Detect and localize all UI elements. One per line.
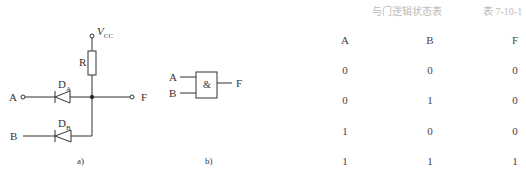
gate-input-a-label: A <box>169 72 177 83</box>
gate-output-f-label: F <box>236 78 242 89</box>
table-cell: 0 <box>427 65 433 76</box>
table-cell: 0 <box>512 95 518 106</box>
table-cell: 1 <box>342 156 348 167</box>
output-f-label: F <box>141 92 147 103</box>
circuit-diagram <box>0 0 526 176</box>
table-cell: 0 <box>427 126 433 137</box>
caption-b: b) <box>205 157 213 166</box>
input-a-label: A <box>9 92 17 103</box>
header-a: A <box>341 35 349 46</box>
output-f-terminal-icon <box>130 95 134 99</box>
table-number: 表 7-10-1 <box>483 3 522 18</box>
table-cell: 0 <box>512 126 518 137</box>
junction-dot-icon <box>90 95 94 99</box>
resistor-icon <box>88 51 96 75</box>
table-title: 与门逻辑状态表 <box>372 3 442 18</box>
input-b-label: B <box>10 131 17 142</box>
resistor-label: R <box>79 57 86 68</box>
header-f: F <box>512 35 518 46</box>
vcc-label: VCC <box>97 26 113 40</box>
diode-b-label: DB <box>58 118 71 132</box>
caption-a: a) <box>77 157 84 166</box>
header-b: B <box>426 35 433 46</box>
diode-a-label: DA <box>58 79 71 93</box>
table-cell: 1 <box>512 156 518 167</box>
table-cell: 1 <box>427 156 433 167</box>
table-cell: 0 <box>512 65 518 76</box>
and-symbol: & <box>203 80 211 90</box>
table-cell: 1 <box>342 126 348 137</box>
gate-input-b-label: B <box>169 88 176 99</box>
table-cell: 0 <box>342 65 348 76</box>
vcc-terminal-icon <box>90 34 94 38</box>
input-a-terminal-icon <box>21 95 25 99</box>
figure: VCC R DA DB A B F a) & A B F b) <box>0 0 526 176</box>
table-cell: 1 <box>427 95 433 106</box>
table-cell: 0 <box>342 95 348 106</box>
